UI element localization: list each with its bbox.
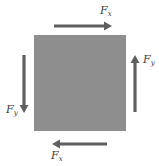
label-symbol: F bbox=[99, 4, 108, 17]
label-symbol: F bbox=[50, 149, 59, 162]
force-arrow-left bbox=[20, 55, 29, 113]
label-left-force: Fy bbox=[5, 103, 19, 117]
label-top-force: Fx bbox=[99, 4, 112, 18]
square-element bbox=[34, 35, 126, 131]
arrow-head-left bbox=[20, 105, 29, 113]
shear-force-diagram: Fx Fy Fy Fx bbox=[0, 0, 159, 166]
force-arrow-top bbox=[54, 22, 112, 31]
force-arrow-right bbox=[131, 55, 140, 112]
label-bottom-force: Fx bbox=[50, 149, 63, 163]
arrow-head-right bbox=[131, 55, 140, 63]
arrow-head-bottom bbox=[52, 140, 60, 149]
diagram-canvas: Fx Fy Fy Fx bbox=[0, 0, 159, 166]
label-subscript: x bbox=[59, 155, 63, 163]
arrow-head-top bbox=[104, 22, 112, 31]
label-symbol: F bbox=[5, 103, 14, 116]
label-subscript: y bbox=[150, 59, 156, 67]
label-symbol: F bbox=[142, 53, 151, 66]
label-subscript: y bbox=[13, 109, 19, 117]
label-right-force: Fy bbox=[142, 53, 156, 67]
label-subscript: x bbox=[108, 10, 112, 18]
force-arrow-bottom bbox=[52, 140, 107, 149]
